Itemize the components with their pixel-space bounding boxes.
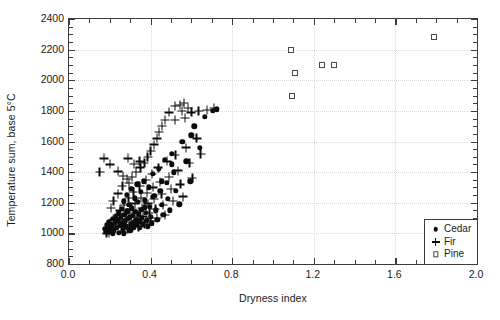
x-tick-label: 1.2 [305,268,320,280]
y-axis-tick-labels: 80010001200140016001800200022002400 [26,18,64,265]
data-point-cedar [142,205,147,210]
x-axis-tick [334,19,335,23]
data-point-fir [140,158,149,167]
data-point-fir [107,224,116,233]
x-axis-tick [293,19,294,23]
x-axis-tick [130,19,131,23]
y-axis-tick [69,73,73,74]
data-point-fir [123,224,132,233]
x-tick-label: 0.8 [224,268,239,280]
x-axis-tick [273,260,274,264]
y-tick-label: 2400 [41,12,64,24]
x-axis-tick [314,258,315,264]
data-point-cedar [118,215,123,220]
y-axis-tick [69,226,73,227]
x-axis-tick [110,19,111,23]
data-point-cedar [132,195,137,200]
data-point-cedar [123,224,128,229]
data-point-cedar [122,212,127,217]
data-point-fir [118,181,127,190]
data-point-cedar [139,215,144,220]
data-point-cedar [135,182,140,187]
data-point-fir [111,214,120,223]
data-point-fir [105,160,114,169]
y-axis-tick [69,42,73,43]
y-axis-tick [69,126,73,127]
x-axis-tick [355,19,356,23]
data-point-cedar [133,217,138,222]
data-point-cedar [135,218,140,223]
x-axis-tick [110,260,111,264]
data-point-fir [138,204,147,213]
x-axis-tick [314,19,315,25]
data-point-fir [188,174,197,183]
x-axis-tick [334,260,335,264]
data-point-fir [135,157,144,166]
x-tick-label: 0.4 [142,268,157,280]
data-point-fir [180,99,189,108]
data-point-cedar [189,133,194,138]
y-axis-title: Temperature sum, base 5°C [0,0,22,320]
data-point-cedar [125,216,130,221]
x-axis-tick [191,19,192,23]
filled-circle-icon [430,224,441,235]
x-axis-tick [191,260,192,264]
data-point-fir [179,192,188,201]
data-point-fir [182,143,191,152]
data-point-cedar [169,151,174,156]
data-point-cedar [165,196,170,201]
data-point-pine [331,62,337,68]
data-point-fir [140,220,149,229]
open-square-icon [430,249,441,260]
plus-icon [430,236,441,247]
data-point-fir [154,128,163,137]
data-point-cedar [131,220,136,225]
x-axis-tick [151,19,152,25]
data-point-cedar [129,186,134,191]
gridline-vertical [395,19,396,264]
legend-item-pine: Pine [430,248,473,261]
x-axis-tick [375,19,376,23]
data-point-fir [124,154,133,163]
y-axis-tick [69,203,75,204]
data-point-fir [118,222,127,231]
gridline-horizontal [69,142,477,143]
y-axis-tick [473,195,477,196]
data-point-cedar [144,218,149,223]
y-axis-tick [69,88,73,89]
data-point-fir [147,169,156,178]
data-point-fir [124,194,133,203]
data-point-fir [125,178,134,187]
y-axis-tick [69,210,73,211]
data-point-pine [431,34,437,40]
x-axis-tick [171,19,172,23]
data-point-fir [187,108,196,117]
data-point-cedar [167,208,172,213]
y-axis-tick [69,80,75,81]
gridline-vertical [314,19,315,264]
data-point-cedar [158,188,163,193]
y-axis-tick [69,241,73,242]
y-tick-label: 1800 [41,104,64,116]
y-axis-tick [69,50,75,51]
data-point-cedar [131,225,136,230]
data-point-cedar [164,180,169,185]
gridline-horizontal [69,80,477,81]
y-axis-tick [473,88,477,89]
data-point-cedar [143,210,148,215]
data-point-fir [173,166,182,175]
data-point-fir [123,175,132,184]
data-point-pine [319,62,325,68]
x-axis-tick [232,258,233,264]
data-point-cedar [138,189,143,194]
data-point-cedar [133,209,138,214]
legend-item-cedar: Cedar [430,223,473,236]
data-point-pine [292,70,298,76]
data-point-fir [176,100,185,109]
y-axis-tick [69,142,75,143]
y-axis-tick [69,164,73,165]
y-axis-tick [473,180,477,181]
y-axis-tick [69,27,73,28]
data-point-cedar [116,211,121,216]
gridline-horizontal [69,233,477,234]
